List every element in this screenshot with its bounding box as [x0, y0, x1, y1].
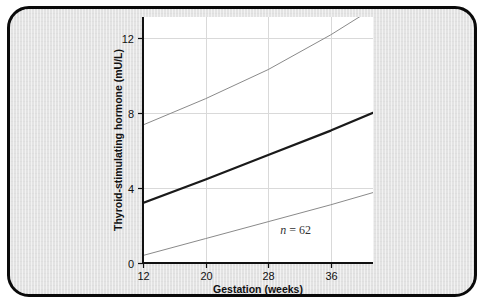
x-axis-title: Gestation (weeks): [213, 283, 303, 295]
y-tick-label: 12: [122, 33, 134, 45]
y-tick-label: 8: [128, 108, 134, 120]
y-axis-ticks: [138, 39, 143, 264]
x-tick-label: 20: [200, 270, 212, 282]
sample-size-value: = 62: [286, 223, 311, 237]
x-tick-label: 36: [325, 270, 337, 282]
y-axis-title: Thyroid-stimulating hormone (mU/L): [112, 49, 124, 231]
x-tick-label: 12: [137, 270, 149, 282]
y-tick-label: 0: [128, 258, 134, 270]
sample-size-annotation: n = 62: [280, 223, 311, 237]
chart-area: 04812 12202836 Gestation (weeks) Thyroid…: [0, 0, 484, 303]
y-tick-label: 4: [128, 183, 134, 195]
x-axis-tick-labels: 12202836: [137, 270, 337, 282]
x-tick-label: 28: [262, 270, 274, 282]
x-axis-ticks: [144, 263, 332, 268]
tsh-gestation-line-chart: 04812 12202836 Gestation (weeks) Thyroid…: [0, 0, 484, 303]
figure-container: 04812 12202836 Gestation (weeks) Thyroid…: [0, 0, 484, 303]
plot-background: [143, 17, 373, 263]
